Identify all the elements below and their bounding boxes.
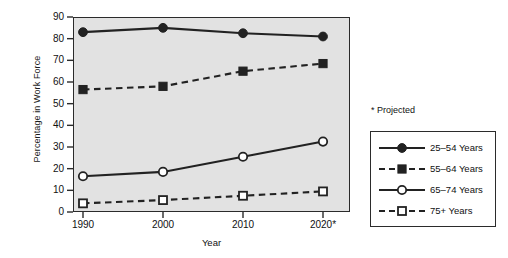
y-tick-label: 70 (36, 54, 64, 65)
legend-marker-icon (377, 204, 427, 218)
y-tick-label: 10 (36, 184, 64, 195)
legend-marker-icon (377, 141, 427, 155)
legend-item[interactable]: 25–54 Years (371, 137, 495, 158)
legend-item-label: 25–54 Years (430, 142, 483, 153)
y-tick-label: 40 (36, 119, 64, 130)
legend-item[interactable]: 55–64 Years (371, 158, 495, 179)
legend-item-label: 55–64 Years (430, 163, 483, 174)
chart-page: Percentage in Work Force 010203040506070… (0, 0, 508, 258)
y-tick-label: 0 (36, 206, 64, 217)
y-tick-label: 80 (36, 33, 64, 44)
legend-item[interactable]: 65–74 Years (371, 179, 495, 200)
x-axis-title: Year (73, 237, 350, 248)
y-tick-label: 50 (36, 98, 64, 109)
projected-footnote: * Projected (371, 105, 415, 115)
y-tick-label: 60 (36, 76, 64, 87)
x-tick-label: 1990 (53, 219, 113, 230)
legend-marker-icon (377, 183, 427, 197)
x-tick-label: 2020* (293, 219, 353, 230)
legend-item[interactable]: 75+ Years (371, 200, 495, 221)
legend-item-label: 65–74 Years (430, 184, 483, 195)
chart-legend: 25–54 Years55–64 Years65–74 Years75+ Yea… (370, 131, 496, 227)
x-tick-label: 2000 (133, 219, 193, 230)
legend-marker-icon (377, 162, 427, 176)
plot-area (73, 17, 350, 212)
y-tick-label: 30 (36, 141, 64, 152)
y-tick-label: 90 (36, 11, 64, 22)
legend-item-label: 75+ Years (430, 205, 473, 216)
y-tick-label: 20 (36, 163, 64, 174)
x-tick-label: 2010 (213, 219, 273, 230)
